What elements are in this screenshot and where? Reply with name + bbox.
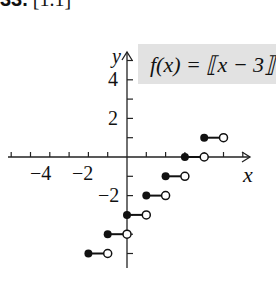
step-function-graph: f(x) = ⟦x − 3⟧ y x −4 −2 4 2 −2 xyxy=(0,0,276,286)
y-axis-label: y xyxy=(110,45,121,68)
x-axis-label: x xyxy=(242,162,253,187)
x-tick-label: −2 xyxy=(72,162,93,184)
x-tick-label: −4 xyxy=(30,162,51,184)
y-tick-label: 4 xyxy=(108,68,118,90)
y-tick-label: −2 xyxy=(98,184,119,206)
function-label: f(x) = ⟦x − 3⟧ xyxy=(150,52,276,77)
y-tick-label: 2 xyxy=(108,107,118,129)
